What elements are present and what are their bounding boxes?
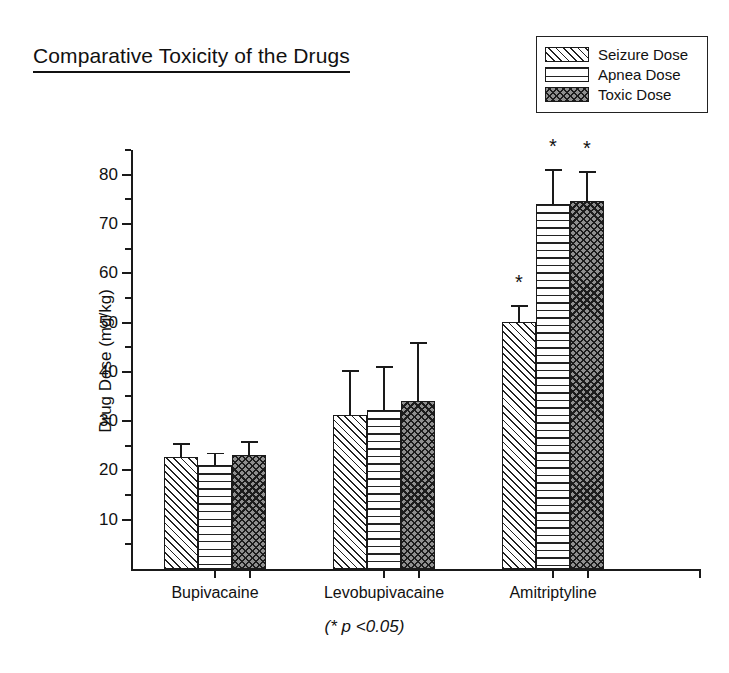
y-tick-major [122,371,131,373]
y-tick-minor [125,494,131,496]
y-tick-minor [125,149,131,151]
x-tick [383,569,385,578]
error-bar-cap [511,305,528,307]
chart-figure: Comparative Toxicity of the Drugs Seizur… [0,0,729,673]
significance-marker: * [515,272,523,292]
legend-swatch-cross-hatch-icon [545,87,589,102]
x-axis-label-levobupivacaine: Levobupivacaine [324,584,444,602]
y-tick-major [122,469,131,471]
bar-amitriptyline-seizure-dose [502,322,536,569]
significance-marker: * [583,138,591,158]
error-bar [518,305,520,322]
legend-label-seizure-dose: Seizure Dose [598,47,688,62]
y-tick-major [122,322,131,324]
y-tick-minor [125,248,131,250]
error-bar [349,370,351,414]
y-tick-minor [125,543,131,545]
y-tick-label: 30 [99,411,118,431]
significance-footnote: (* p <0.05) [325,617,405,637]
bar-levobupivacaine-toxic-dose [401,401,435,569]
legend-item-seizure-dose: Seizure Dose [545,45,699,64]
legend-swatch-horizontal-lines-icon [545,67,589,82]
y-tick-major [122,272,131,274]
legend-swatch-diagonal-hatch-icon [545,47,589,62]
error-bar-cap [173,443,190,445]
y-tick-minor [125,198,131,200]
bar-levobupivacaine-seizure-dose [333,415,367,569]
x-tick [552,569,554,578]
y-tick-minor [125,445,131,447]
bar-levobupivacaine-apnea-dose [367,410,401,569]
x-tick [214,569,216,578]
y-tick-label: 50 [99,313,118,333]
x-axis-label-amitriptyline: Amitriptyline [509,584,596,602]
x-tick-boundary [418,569,420,578]
error-bar-cap [410,342,427,344]
bar-amitriptyline-apnea-dose [536,204,570,569]
y-tick-label: 40 [99,362,118,382]
y-tick-major [122,223,131,225]
error-bar-cap [241,441,258,443]
error-bar [383,366,385,410]
y-tick-label: 80 [99,165,118,185]
bar-bupivacaine-seizure-dose [164,457,198,569]
y-tick-label: 20 [99,460,118,480]
bar-bupivacaine-apnea-dose [198,465,232,569]
x-tick-boundary [249,569,251,578]
error-bar [248,441,250,455]
error-bar-cap [342,370,359,372]
y-tick-minor [125,297,131,299]
bar-bupivacaine-toxic-dose [232,455,266,569]
legend-item-apnea-dose: Apnea Dose [545,65,699,84]
plot-area: Drug Dose (mg/kg) 1020304050607080 *** B… [131,150,701,571]
y-tick-minor [125,346,131,348]
bar-amitriptyline-toxic-dose [570,201,604,569]
y-axis-line [131,150,133,571]
x-axis-line [131,569,701,571]
error-bar [586,171,588,201]
error-bar [552,169,554,204]
x-axis-label-bupivacaine: Bupivacaine [171,584,258,602]
y-tick-major [122,174,131,176]
x-tick-boundary [587,569,589,578]
x-tick-boundary [699,569,701,578]
chart-legend: Seizure Dose Apnea Dose Toxic Dose [536,36,708,113]
y-tick-label: 10 [99,510,118,530]
error-bar [417,342,419,401]
error-bar-cap [376,366,393,368]
error-bar [180,443,182,457]
error-bar-cap [545,169,562,171]
significance-marker: * [549,136,557,156]
legend-item-toxic-dose: Toxic Dose [545,85,699,104]
y-tick-minor [125,395,131,397]
y-tick-major [122,519,131,521]
y-tick-label: 60 [99,263,118,283]
y-tick-label: 70 [99,214,118,234]
legend-label-toxic-dose: Toxic Dose [598,87,671,102]
y-tick-major [122,420,131,422]
legend-label-apnea-dose: Apnea Dose [598,67,681,82]
error-bar [214,453,216,466]
chart-title: Comparative Toxicity of the Drugs [33,44,350,73]
error-bar-cap [579,171,596,173]
error-bar-cap [207,453,224,455]
